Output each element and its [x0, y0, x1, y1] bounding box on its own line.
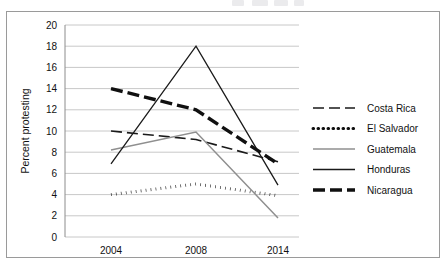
- x-axis-tick-label: 2014: [267, 245, 290, 256]
- y-axis-tick-label: 20: [46, 20, 58, 31]
- legend-label-el-salvador: El Salvador: [367, 123, 419, 134]
- legend-label-honduras: Honduras: [367, 164, 410, 175]
- legend-label-nicaragua: Nicaragua: [367, 185, 413, 196]
- y-axis-tick-label: 6: [51, 168, 57, 179]
- y-axis-tick-label: 14: [46, 83, 58, 94]
- x-axis-tick-label: 2008: [185, 245, 208, 256]
- series-line-el-salvador: [111, 184, 278, 196]
- y-axis-tick-label: 12: [46, 104, 58, 115]
- series-line-guatemala: [111, 132, 278, 218]
- y-axis-tick-label: 16: [46, 62, 58, 73]
- y-axis-tick-label: 4: [51, 189, 57, 200]
- y-axis-tick-label: 8: [51, 147, 57, 158]
- y-axis-title: Percent protesting: [19, 88, 31, 173]
- y-axis-tick-label: 18: [46, 41, 58, 52]
- legend-label-guatemala: Guatemala: [367, 144, 416, 155]
- y-axis-tick-label: 0: [51, 232, 57, 243]
- x-axis-tick-label: 2004: [100, 245, 123, 256]
- y-axis-tick-label: 10: [46, 126, 58, 137]
- line-chart: 02468101214161820Percent protesting20042…: [7, 12, 439, 257]
- legend-label-costa-rica: Costa Rica: [367, 103, 416, 114]
- scan-artifact-strip: [0, 0, 448, 10]
- chart-figure: 02468101214161820Percent protesting20042…: [6, 11, 440, 258]
- y-axis-tick-label: 2: [51, 210, 57, 221]
